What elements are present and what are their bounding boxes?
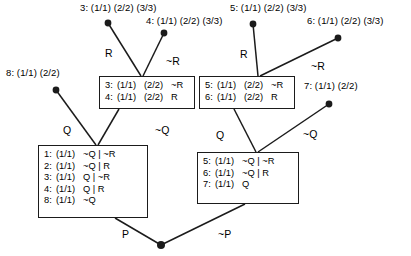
box-lower-left[interactable]: 1:(1/1)~Q | ~R2:(1/1)~Q | R3:(1/1)Q | ~R…	[38, 145, 148, 218]
row-cell-1: (1/1)	[215, 156, 242, 168]
row-cell-2: ~Q | ~R	[83, 149, 110, 161]
row-index: 5:	[205, 80, 217, 92]
row-index: 3:	[105, 80, 117, 92]
row-cell-1: (1/1)	[117, 80, 144, 92]
node-7-label: 7: (1/1) (2/2)	[304, 80, 358, 91]
table-row: 2:(1/1)~Q | R	[44, 161, 142, 173]
node-3-label: 3: (1/1) (2/2) (3/3)	[80, 2, 156, 13]
row-index: 6:	[203, 168, 215, 180]
table-row: 3:(1/1)(2/2)~R	[105, 80, 189, 92]
edge-label-not-q-right: ~Q	[303, 128, 317, 140]
node-5-dot[interactable]	[250, 21, 257, 28]
box-upper-left[interactable]: 3:(1/1)(2/2)~R4:(1/1)(2/2)R	[99, 76, 195, 109]
row-index: 7:	[203, 179, 215, 191]
row-cell-1: (1/1)	[56, 161, 83, 173]
edge-label-q-right: Q	[216, 129, 224, 141]
edge-node8-to-box-lower-left	[56, 90, 96, 145]
edge-box-upper-right-to-lower-right	[234, 109, 256, 152]
row-index: 8:	[44, 195, 56, 207]
diagram-canvas: 3: (1/1) (2/2) (3/3)4: (1/1) (2/2) (3/3)…	[0, 0, 411, 256]
row-cell-3: ~R	[271, 80, 283, 92]
row-cell-3: R	[171, 92, 178, 104]
row-cell-2: ~Q | ~R	[242, 156, 269, 168]
row-cell-2: ~Q	[83, 195, 110, 207]
row-index: 2:	[44, 161, 56, 173]
box-upper-right[interactable]: 5:(1/1)(2/2)~R6:(1/1)(2/2)R	[199, 76, 295, 109]
node-4-label: 4: (1/1) (2/2) (3/3)	[146, 15, 222, 26]
root-node[interactable]	[157, 241, 165, 249]
table-row: 1:(1/1)~Q | ~R	[44, 149, 142, 161]
row-index: 3:	[44, 172, 56, 184]
edge-label-p: P	[122, 228, 129, 240]
row-cell-2: ~Q | R	[242, 168, 269, 180]
row-cell-1: (1/1)	[217, 92, 244, 104]
table-row: 6:(1/1)(2/2)R	[205, 92, 289, 104]
table-row: 8:(1/1)~Q	[44, 195, 142, 207]
node-5-label: 5: (1/1) (2/2) (3/3)	[230, 2, 306, 13]
row-cell-1: (1/1)	[56, 184, 83, 196]
row-index: 5:	[203, 156, 215, 168]
edge-label-r-right: R	[240, 48, 248, 60]
edge-node6-to-box-upper-right	[260, 38, 338, 76]
row-cell-2: Q | R	[83, 184, 110, 196]
box-lower-right[interactable]: 5:(1/1)~Q | ~R6:(1/1)~Q | R7:(1/1)Q	[197, 152, 299, 204]
edge-label-not-q-left: ~Q	[155, 124, 169, 136]
row-cell-2: Q | ~R	[83, 172, 110, 184]
table-row: 4:(1/1)Q | R	[44, 184, 142, 196]
row-cell-1: (1/1)	[217, 80, 244, 92]
row-cell-2: Q	[242, 179, 269, 191]
table-row: 3:(1/1)Q | ~R	[44, 172, 142, 184]
row-cell-1: (1/1)	[56, 172, 83, 184]
row-cell-2: (2/2)	[144, 80, 171, 92]
node-6-label: 6: (1/1) (2/2) (3/3)	[307, 15, 383, 26]
row-cell-3: R	[271, 92, 278, 104]
row-cell-1: (1/1)	[215, 179, 242, 191]
row-cell-2: ~Q | R	[83, 161, 110, 173]
row-cell-3: ~R	[171, 80, 183, 92]
table-row: 4:(1/1)(2/2)R	[105, 92, 189, 104]
edge-node7-to-box-lower-right	[258, 104, 329, 152]
edge-box-upper-left-to-lower-left	[98, 109, 119, 145]
row-index: 4:	[105, 92, 117, 104]
row-cell-2: (2/2)	[144, 92, 171, 104]
edge-node5-to-box-upper-right	[253, 24, 258, 76]
node-8-dot[interactable]	[53, 87, 60, 94]
table-row: 6:(1/1)~Q | R	[203, 168, 293, 180]
row-cell-1: (1/1)	[56, 149, 83, 161]
edge-box-lower-right-to-root	[161, 204, 245, 245]
node-4-dot[interactable]	[161, 30, 168, 37]
row-cell-2: (2/2)	[244, 92, 271, 104]
node-8-label: 8: (1/1) (2/2)	[6, 67, 60, 78]
row-cell-1: (1/1)	[117, 92, 144, 104]
edge-label-not-p: ~P	[218, 228, 231, 240]
row-index: 1:	[44, 149, 56, 161]
table-row: 7:(1/1)Q	[203, 179, 293, 191]
node-7-dot[interactable]	[326, 101, 333, 108]
edge-label-not-r-right: ~R	[311, 60, 325, 72]
row-index: 4:	[44, 184, 56, 196]
row-cell-2: (2/2)	[244, 80, 271, 92]
edge-label-q-left: Q	[63, 124, 71, 136]
edge-node4-to-box-upper-left	[143, 33, 164, 76]
edge-label-r-left: R	[105, 47, 113, 59]
row-cell-1: (1/1)	[56, 195, 83, 207]
node-3-dot[interactable]	[105, 20, 112, 27]
row-cell-1: (1/1)	[215, 168, 242, 180]
table-row: 5:(1/1)~Q | ~R	[203, 156, 293, 168]
table-row: 5:(1/1)(2/2)~R	[205, 80, 289, 92]
node-6-dot[interactable]	[335, 35, 342, 42]
row-index: 6:	[205, 92, 217, 104]
edge-label-not-r-left: ~R	[166, 55, 180, 67]
